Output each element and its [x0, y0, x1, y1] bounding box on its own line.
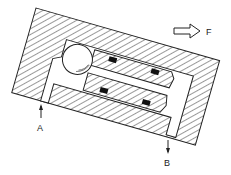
valve-diagram: A B F	[0, 0, 231, 175]
port-b-arrow	[166, 140, 170, 154]
port-a-label: A	[37, 123, 43, 133]
force-arrow	[174, 24, 200, 38]
force-label: F	[206, 27, 212, 37]
port-a-arrow	[39, 104, 43, 118]
port-b-label: B	[164, 158, 170, 168]
